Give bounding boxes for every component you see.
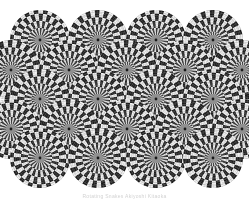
illusion-image: Rotating Snakes Akiyoshi Kitaoka [0, 0, 249, 200]
image-caption: Rotating Snakes Akiyoshi Kitaoka [0, 193, 249, 199]
rotating-snakes-canvas [0, 0, 249, 200]
